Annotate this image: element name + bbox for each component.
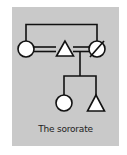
sibling-link [26,25,97,42]
son-node [88,95,105,111]
husband-node [57,41,74,56]
diagram-caption: The sororate [12,124,119,134]
children-link [64,76,96,95]
sister-node [18,41,34,57]
daughter-node [56,95,72,111]
